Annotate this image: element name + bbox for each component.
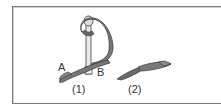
step1-caption: (1) <box>72 84 85 95</box>
point-b-label: B <box>97 67 104 78</box>
point-a-label: A <box>58 62 65 73</box>
ribbon-illustration <box>0 0 221 110</box>
ribbon-step2-icon <box>117 61 171 80</box>
step2-caption: (2) <box>128 84 141 95</box>
